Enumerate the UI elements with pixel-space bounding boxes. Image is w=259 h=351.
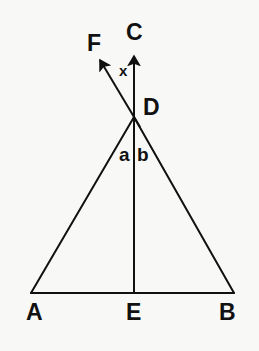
angle-label-b: b	[137, 145, 149, 164]
point-label-F: F	[87, 32, 101, 55]
median-and-rays	[100, 56, 140, 293]
point-label-B: B	[219, 301, 236, 324]
angle-label-x: x	[119, 63, 127, 78]
point-label-E: E	[126, 301, 141, 324]
geometry-figure: A B E C D F x a b	[0, 0, 259, 351]
angle-label-a: a	[119, 145, 130, 164]
point-label-D: D	[143, 96, 160, 119]
point-label-A: A	[26, 301, 43, 324]
point-label-C: C	[126, 21, 143, 44]
triangle-outline	[31, 117, 234, 293]
segment-side-BD	[134, 117, 234, 293]
